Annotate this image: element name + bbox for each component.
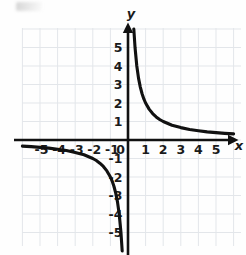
gridlines (22, 28, 241, 246)
tick-label-y-5: 5 (114, 40, 123, 55)
tick-label-y-2: 2 (114, 96, 123, 111)
tick-label-x-4: 4 (194, 142, 203, 157)
tick-label-y--1: -1 (109, 151, 123, 166)
axis-labels: xy (127, 6, 244, 153)
graph-figure: -5-4-3-2-1012345-5-4-3-2-112345 xy (0, 0, 246, 255)
tick-label-y-1: 1 (114, 114, 123, 129)
tick-label-x-2: 2 (159, 142, 168, 157)
tick-label-x-1: 1 (141, 142, 150, 157)
quadrant-III-branch (22, 146, 122, 251)
quadrant-I-branch (134, 29, 234, 134)
y-axis-arrowhead (123, 23, 133, 34)
coordinate-plane-svg: -5-4-3-2-1012345-5-4-3-2-112345 xy (0, 0, 246, 255)
tick-label-x--2: -2 (87, 142, 101, 157)
tick-label-x-3: 3 (176, 142, 185, 157)
tick-label-x-5: 5 (212, 142, 221, 157)
axes (14, 23, 239, 255)
tick-label-y-4: 4 (114, 59, 123, 74)
y-axis-label: y (127, 6, 136, 21)
tick-label-y-3: 3 (114, 77, 123, 92)
x-axis-label: x (234, 138, 244, 153)
